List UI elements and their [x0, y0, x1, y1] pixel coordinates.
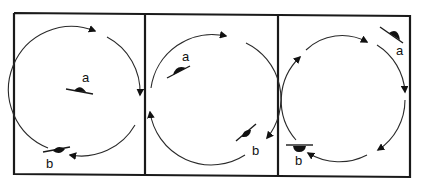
object-a: a [380, 27, 404, 58]
panel-3: a b [281, 27, 405, 168]
object-a-body [389, 31, 400, 40]
object-a: a [66, 70, 93, 94]
label-a: a [182, 49, 190, 64]
object-b-body [242, 130, 251, 137]
panel-frame [14, 13, 410, 177]
arrow-arc-left [281, 57, 300, 140]
arrow-arc-bottom [70, 125, 135, 156]
panel-1: a b [8, 26, 140, 171]
arrow-arc-bottom [308, 153, 367, 162]
object-a-body [173, 67, 186, 75]
panel-2: a b [150, 34, 281, 164]
object-b: b [286, 145, 313, 168]
rotation-arrows [8, 26, 140, 156]
object-a: a [167, 49, 190, 78]
object-b-body [293, 146, 306, 152]
arrow-arc-right [246, 43, 281, 138]
arrow-arc-top [306, 36, 367, 50]
arrow-arc-bottom-right [378, 100, 405, 150]
rotation-arrows [281, 36, 405, 162]
rotation-arrows [150, 34, 281, 164]
label-b: b [46, 156, 53, 171]
object-b: b [43, 147, 70, 171]
arrow-arc-right [107, 37, 140, 95]
arrow-arc-top-left [8, 26, 95, 148]
arrow-arc-bottom-left [150, 112, 245, 165]
rotation-diagram: a b a b [0, 0, 423, 185]
object-b: b [236, 124, 259, 158]
label-b: b [295, 153, 302, 168]
label-a: a [396, 43, 404, 58]
label-a: a [82, 70, 90, 85]
label-b: b [252, 143, 259, 158]
